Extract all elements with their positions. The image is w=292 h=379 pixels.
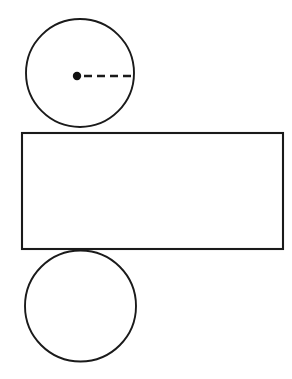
- center-point-dot: [73, 72, 81, 80]
- top-base-circle: [26, 19, 134, 127]
- net-figure-canvas: [0, 0, 292, 379]
- bottom-base-circle: [25, 251, 136, 362]
- lateral-surface-rectangle: [22, 133, 283, 249]
- cylinder-net-diagram: [0, 0, 292, 379]
